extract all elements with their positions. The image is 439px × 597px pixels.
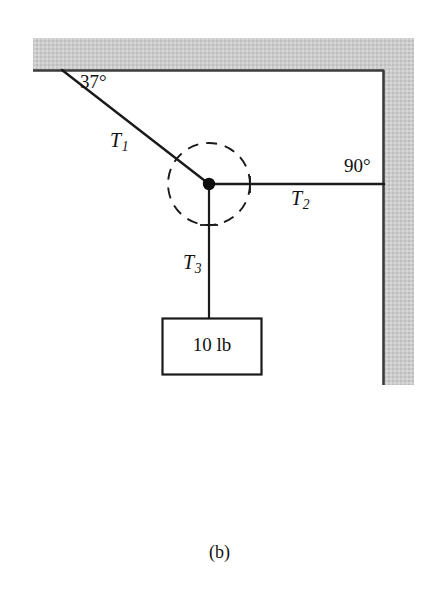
tension-subscript-t2: 2	[303, 197, 310, 212]
tension-symbol-t2: T	[291, 187, 302, 209]
angle-label-wall: 90°	[344, 156, 371, 175]
ceiling-hatched-band	[33, 38, 414, 70]
angle-label-ceiling: 37°	[80, 72, 107, 91]
tension-symbol-t1: T	[110, 129, 121, 151]
tension-symbol-t3: T	[183, 251, 194, 273]
weight-value-label: 10 lb	[162, 335, 262, 354]
tension-label-t1: T1	[110, 130, 128, 153]
figure-caption: (b)	[0, 543, 439, 561]
force-diagram-canvas	[0, 0, 439, 597]
knot-point	[203, 178, 215, 190]
tension-subscript-t1: 1	[122, 139, 129, 154]
physics-figure: 37° 90° T1 T2 T3 10 lb (b)	[0, 0, 439, 597]
tension-label-t2: T2	[291, 188, 309, 211]
wall-hatched-band	[383, 38, 414, 385]
tension-label-t3: T3	[183, 252, 201, 275]
tension-subscript-t3: 3	[195, 261, 202, 276]
